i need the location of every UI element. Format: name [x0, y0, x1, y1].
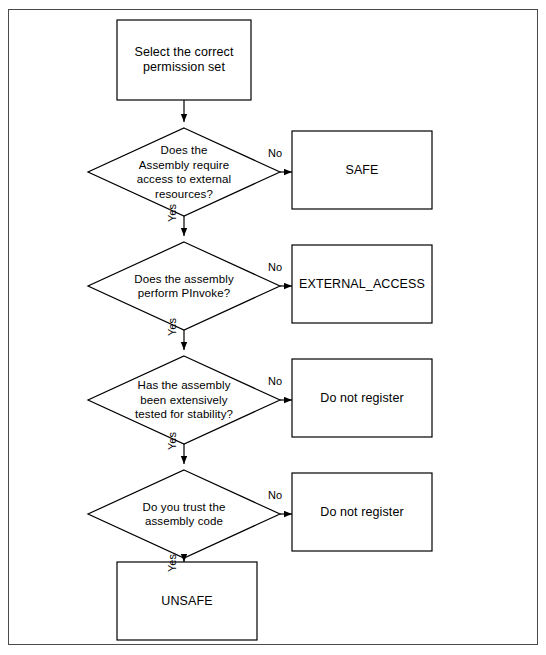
node-do-not-register-2-shape	[292, 473, 432, 551]
edge-label-no-3: No	[268, 375, 282, 387]
node-start-shape	[117, 20, 251, 100]
edge-label-yes-1: Yes	[166, 204, 178, 222]
node-decision-2-shape	[88, 242, 280, 330]
node-decision-3-shape	[88, 356, 280, 444]
node-do-not-register-1-shape	[292, 359, 432, 437]
edge-label-no-1: No	[268, 147, 282, 159]
edge-label-yes-4: Yes	[166, 554, 178, 572]
edge-label-yes-2: Yes	[166, 318, 178, 336]
node-external-access-shape	[292, 245, 432, 323]
node-unsafe-shape	[117, 562, 257, 640]
edge-label-no-2: No	[268, 261, 282, 273]
node-decision-4-shape	[88, 470, 280, 558]
node-decision-1-shape	[88, 128, 280, 216]
flowchart-canvas: Select the correct permission set Does t…	[0, 0, 546, 655]
edge-label-no-4: No	[268, 489, 282, 501]
node-safe-shape	[292, 131, 432, 209]
flowchart-graphics	[0, 0, 546, 655]
edge-label-yes-3: Yes	[166, 432, 178, 450]
